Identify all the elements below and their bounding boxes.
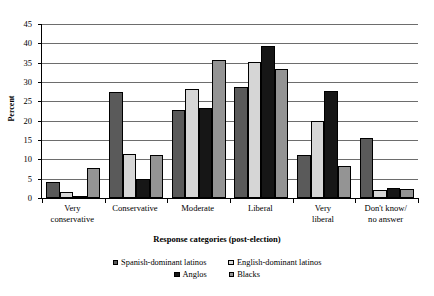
bar[interactable] — [324, 91, 338, 198]
y-tick-mark: 45 — [38, 24, 42, 25]
x-category-label: Don't know/no answer — [354, 203, 417, 225]
y-tick-mark: 35 — [38, 63, 42, 64]
x-category-label-line: Don't know/ — [354, 203, 417, 214]
bar[interactable] — [46, 182, 60, 198]
bar[interactable] — [123, 154, 137, 198]
x-category-label-line: Very — [292, 203, 355, 214]
bar-group-bars — [297, 24, 351, 198]
y-tick-label: 45 — [24, 19, 33, 29]
y-tick-label: 20 — [24, 116, 33, 126]
y-tick-label: 0 — [28, 193, 32, 203]
bar[interactable] — [261, 46, 275, 198]
y-tick-mark: 15 — [38, 140, 42, 141]
bar[interactable] — [234, 87, 248, 198]
bar[interactable] — [360, 138, 374, 198]
x-category-label: Veryconservative — [41, 203, 104, 225]
bar[interactable] — [338, 166, 352, 198]
bar-chart-figure: Percent 051015202530354045 Veryconservat… — [0, 0, 434, 296]
bar-group-bars — [360, 24, 414, 198]
bar[interactable] — [73, 196, 87, 198]
x-category-label-line: Conservative — [104, 203, 167, 214]
x-tick-mark — [418, 198, 419, 203]
y-tick-mark: 40 — [38, 43, 42, 44]
bar[interactable] — [150, 155, 164, 198]
bar[interactable] — [400, 189, 414, 198]
bar-group-bars — [46, 24, 100, 198]
x-category-label: Conservative — [104, 203, 167, 214]
bar[interactable] — [136, 179, 150, 198]
y-tick-mark: 20 — [38, 121, 42, 122]
bar[interactable] — [248, 62, 262, 198]
legend-label: English-dominant latinos — [237, 258, 321, 267]
x-category-label-line: no answer — [354, 214, 417, 225]
bar-group — [297, 24, 351, 198]
bar-group — [172, 24, 226, 198]
bar[interactable] — [87, 168, 101, 198]
bar[interactable] — [199, 108, 213, 198]
x-category-label-line: conservative — [41, 214, 104, 225]
x-category-label: Moderate — [166, 203, 229, 214]
bar[interactable] — [109, 92, 123, 198]
bar[interactable] — [60, 192, 74, 198]
legend-row: AnglosBlacks — [0, 270, 434, 279]
y-tick-mark: 10 — [38, 159, 42, 160]
chart-legend: Spanish-dominant latinosEnglish-dominant… — [0, 258, 434, 282]
bar[interactable] — [275, 69, 289, 198]
bar[interactable] — [185, 89, 199, 198]
legend-swatch-icon — [229, 272, 235, 278]
y-tick-label: 30 — [24, 77, 33, 87]
x-axis-title: Response categories (post-election) — [0, 234, 434, 244]
y-tick-label: 35 — [24, 58, 33, 68]
legend-label: Blacks — [237, 270, 260, 279]
x-category-label-line: liberal — [292, 214, 355, 225]
legend-item[interactable]: English-dominant latinos — [228, 258, 321, 267]
bar[interactable] — [172, 110, 186, 198]
x-category-label: Liberal — [229, 203, 292, 214]
y-axis-title: Percent — [7, 79, 16, 139]
legend-label: Spanish-dominant latinos — [121, 258, 206, 267]
legend-item[interactable]: Anglos — [174, 270, 207, 279]
bar[interactable] — [373, 190, 387, 198]
x-category-label-line: Very — [41, 203, 104, 214]
bar-group-bars — [234, 24, 288, 198]
y-tick-label: 40 — [24, 38, 33, 48]
legend-item[interactable]: Spanish-dominant latinos — [113, 258, 207, 267]
legend-label: Anglos — [183, 270, 207, 279]
bar-group — [46, 24, 100, 198]
legend-item[interactable]: Blacks — [229, 270, 260, 279]
y-tick-label: 25 — [24, 96, 33, 106]
x-category-label-line: Liberal — [229, 203, 292, 214]
legend-row: Spanish-dominant latinosEnglish-dominant… — [0, 258, 434, 267]
bar[interactable] — [311, 121, 325, 198]
bar-group — [109, 24, 163, 198]
y-tick-mark: 25 — [38, 101, 42, 102]
y-tick-label: 15 — [24, 135, 33, 145]
bar-group-bars — [172, 24, 226, 198]
bar[interactable] — [297, 155, 311, 198]
y-tick-label: 10 — [24, 154, 33, 164]
bar[interactable] — [212, 60, 226, 198]
legend-swatch-icon — [113, 260, 119, 266]
legend-swatch-icon — [228, 260, 234, 266]
legend-swatch-icon — [174, 272, 180, 278]
bar[interactable] — [387, 188, 401, 198]
y-tick-label: 5 — [28, 174, 32, 184]
bar-group — [234, 24, 288, 198]
x-category-label: Veryliberal — [292, 203, 355, 225]
y-tick-mark: 5 — [38, 179, 42, 180]
bar-group-bars — [109, 24, 163, 198]
y-tick-mark: 30 — [38, 82, 42, 83]
plot-area: 051015202530354045 — [41, 24, 418, 198]
x-category-label-line: Moderate — [166, 203, 229, 214]
bar-group — [360, 24, 414, 198]
